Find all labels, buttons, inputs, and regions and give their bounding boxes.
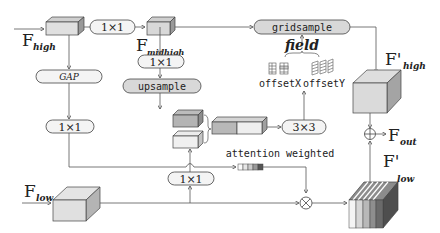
- f-low-prime-box: [349, 182, 398, 228]
- attention-weight-vector: [238, 164, 263, 170]
- upsample-label: upsample: [138, 81, 186, 92]
- field-label: field: [284, 37, 319, 53]
- f-high-prime-sub: high: [403, 61, 426, 71]
- upsampled-feature-box: [173, 110, 203, 127]
- gridsample-label: gridsample: [272, 22, 332, 33]
- fusion-diagram: F high 1×1 F midhigh gridsample field: [0, 0, 440, 233]
- gap-op: GAP: [36, 70, 102, 83]
- offset-x-label: offsetX: [259, 78, 301, 89]
- f-midhigh-box: [147, 17, 175, 35]
- f-out-sub: out: [400, 137, 418, 147]
- offset-x-grid-icon: [269, 63, 288, 74]
- f-out-symbol: F: [388, 125, 400, 145]
- f-high-sub: high: [33, 42, 56, 52]
- f-high-prime-symbol: F': [385, 49, 401, 69]
- conv-1x1-top-label: 1×1: [101, 21, 124, 34]
- concat-feature-box: [212, 117, 267, 134]
- gridsample-op: gridsample: [254, 20, 350, 34]
- conv-3x3-op: 3×3: [282, 120, 326, 134]
- conv-1x1-top-op: 1×1: [90, 20, 135, 34]
- upsample-op: upsample: [123, 79, 201, 93]
- multiply-operator-icon: [300, 197, 312, 209]
- f-high-prime-box: [353, 70, 401, 113]
- conv-1x1-left-op: 1×1: [46, 120, 94, 134]
- conv-1x1-mid-label: 1×1: [149, 56, 172, 69]
- add-operator-icon: [365, 129, 376, 140]
- conv-1x1-bottom-label: 1×1: [179, 173, 202, 186]
- offset-y-label: offsetY: [303, 78, 345, 89]
- f-low-sub: low: [36, 193, 53, 203]
- f-low-prime-symbol: F': [383, 151, 399, 171]
- conv-1x1-mid-op: 1×1: [138, 55, 184, 69]
- f-low-symbol: F: [24, 181, 36, 201]
- low-feature-box: [173, 131, 203, 148]
- conv-1x1-left-label: 1×1: [58, 121, 81, 134]
- f-low-prime-sub: low: [397, 174, 414, 184]
- conv-3x3-label: 3×3: [292, 121, 315, 134]
- concat-brace: [204, 115, 211, 143]
- attention-weighted-label: attention weighted: [226, 148, 334, 159]
- conv-1x1-bottom-op: 1×1: [168, 172, 214, 186]
- gap-label: GAP: [59, 72, 80, 82]
- offset-y-grid-icon: [312, 59, 333, 75]
